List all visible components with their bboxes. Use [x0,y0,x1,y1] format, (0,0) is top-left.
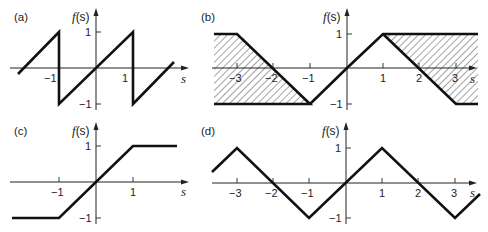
y-axis-arrow-icon [345,8,350,16]
y-tick-label: 1 [85,140,91,152]
y-tick-label: 1 [335,142,341,154]
panel-c-label: (c) [14,125,28,137]
x-tick-label: 1 [379,187,385,199]
y-axis-label: f(s) [72,9,90,24]
y-tick-label: 1 [85,26,91,38]
y-axis-label: f(s) [72,123,90,138]
x-tick-label: 2 [416,72,422,84]
figure: (a) 1 −1 −1 1 s f(s) (b) 1 −1 −3 −2 − [0,0,488,232]
x-tick-label: −1 [51,186,64,198]
panel-b-label: (b) [201,11,215,23]
x-tick-label: 1 [122,72,128,84]
y-tick-label: −1 [329,212,342,224]
panel-b: (b) 1 −1 −3 −2 −1 1 2 3 s f(s) [201,8,478,110]
y-axis-arrow-icon [344,122,349,130]
x-axis-label: s [181,184,186,199]
hatched-region-left [214,34,310,104]
x-tick-label: 3 [451,187,457,199]
y-axis-arrow-icon [94,122,99,130]
x-tick-label: 1 [130,186,136,198]
panel-a-label: (a) [14,11,28,23]
panel-c: (c) 1 −1 −1 1 s f(s) [10,122,189,224]
y-tick-label: −1 [330,98,343,110]
x-axis-label: s [470,71,475,86]
y-tick-label: 1 [336,28,342,40]
x-axis-arrow-icon [181,66,189,71]
x-tick-label: −3 [229,187,242,199]
y-axis-label: f(s) [322,123,340,138]
x-tick-label: −3 [229,72,242,84]
panel-d-label: (d) [201,125,215,137]
y-axis-arrow-icon [94,8,99,16]
x-tick-label: −1 [302,72,315,84]
x-tick-label: −1 [301,187,314,199]
x-tick-label: −2 [265,187,278,199]
x-tick-label: 2 [415,187,421,199]
x-tick-label: −1 [44,72,57,84]
x-tick-label: 1 [380,72,386,84]
y-tick-label: −1 [79,212,92,224]
x-tick-label: −2 [265,72,278,84]
y-axis-label: f(s) [323,9,341,24]
panel-d: (d) 1 −1 −3 −2 −1 1 2 3 s f(s) [201,122,480,224]
y-tick-label: −1 [79,98,92,110]
panel-a: (a) 1 −1 −1 1 s f(s) [10,8,189,110]
hatched-region-right [383,34,478,104]
x-axis-label: s [181,71,186,86]
x-tick-label: 3 [452,72,458,84]
